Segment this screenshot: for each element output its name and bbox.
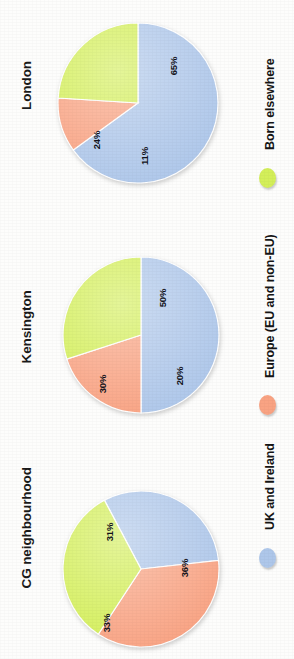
- pie-cg-neighbourhood: [62, 490, 220, 648]
- legend-label-uk-ireland: UK and Ireland: [263, 443, 277, 530]
- panel-label-london: London: [19, 60, 34, 112]
- slice-label-london-elsewhere: 24%: [91, 131, 102, 149]
- pie-kensington-svg: [62, 256, 220, 414]
- slice-label-kensington-europe: 20%: [174, 367, 185, 385]
- slice-label-cg-uk: 31%: [104, 523, 115, 541]
- legend-label-born-elsewhere: Born elsewhere: [263, 58, 277, 150]
- pie-panel-kensington: 50% 20% 30%: [62, 256, 220, 414]
- panel-label-cg-neighbourhood: CG neighbourhood: [19, 537, 34, 589]
- pie-panel-cg-neighbourhood: 31% 36% 33%: [62, 490, 220, 648]
- circle-marker-blue-icon: [259, 548, 276, 568]
- slice-label-cg-elsewhere: 33%: [101, 614, 112, 632]
- slice-label-kensington-elsewhere: 30%: [97, 375, 108, 393]
- circle-marker-green-icon: [259, 168, 276, 188]
- chart-legend: Born elsewhere Europe (EU and non-EU) UK…: [246, 0, 294, 659]
- slice-label-kensington-uk: 50%: [157, 289, 168, 307]
- slice-label-london-europe: 11%: [139, 147, 150, 165]
- panel-label-kensington: Kensington: [19, 312, 34, 364]
- pie-panel-london: 65% 11% 24%: [57, 22, 219, 184]
- circle-marker-salmon-icon: [259, 395, 276, 415]
- pie-chart-figure: London Kensington CG neighbourhood 65% 1…: [0, 0, 294, 659]
- legend-label-europe: Europe (EU and non-EU): [263, 234, 277, 378]
- pie-cg-svg: [62, 490, 220, 648]
- slice-label-cg-europe: 36%: [179, 559, 190, 577]
- pie-kensington: [62, 256, 220, 414]
- slice-label-london-uk: 65%: [168, 57, 179, 75]
